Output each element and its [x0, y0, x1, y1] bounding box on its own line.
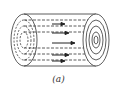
figure-caption: (a)	[0, 74, 117, 84]
right-outer-ellipse	[83, 14, 109, 66]
flow-arrows	[52, 23, 75, 63]
left-outer-ellipse	[11, 14, 37, 66]
